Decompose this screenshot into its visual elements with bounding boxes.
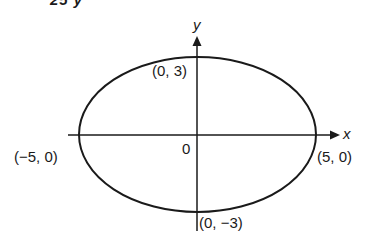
point-label-left: (−5, 0) bbox=[14, 149, 58, 164]
x-axis-label: x bbox=[343, 126, 351, 141]
y-axis-arrow-icon bbox=[193, 36, 202, 46]
diagram-graphic bbox=[0, 0, 368, 231]
x-axis-arrow-icon bbox=[330, 131, 340, 140]
point-label-bottom: (0, −3) bbox=[199, 215, 243, 230]
ellipse-diagram: 25 y y x 0 (0, 3) (0, −3) (−5, 0) (5, 0) bbox=[0, 0, 368, 231]
y-axis-label: y bbox=[193, 17, 201, 32]
point-label-right: (5, 0) bbox=[317, 149, 352, 164]
point-label-top: (0, 3) bbox=[152, 63, 187, 78]
origin-label: 0 bbox=[182, 141, 190, 156]
cropped-equation-fragment: 25 y bbox=[50, 0, 83, 8]
